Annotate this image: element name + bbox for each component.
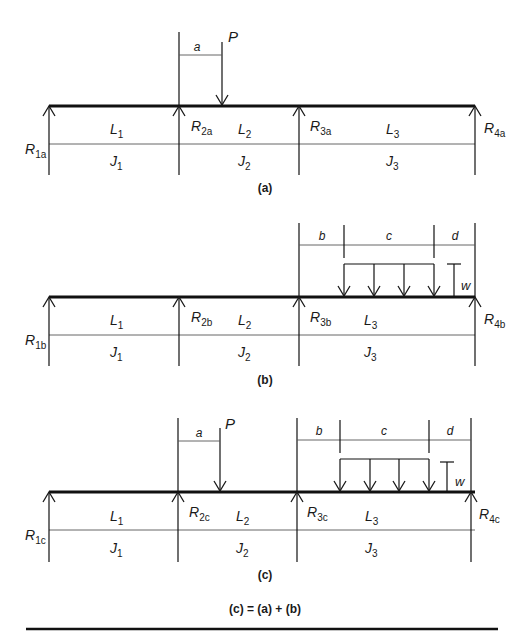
reaction-label-2: R2a (191, 118, 213, 137)
inertia-label-2: J2 (237, 153, 251, 172)
point-load-label: P (228, 28, 238, 45)
udl-label: w (455, 474, 466, 489)
panel-c: P a b c d w R1c R2c R3c R4c L1 L2 L3 J1 … (25, 415, 500, 582)
superposition-equation: (c) = (a) + (b) (229, 602, 301, 616)
inertia-label-3: J3 (363, 344, 377, 363)
inertia-label-1: J1 (109, 344, 123, 363)
span-label-1: L1 (110, 312, 124, 331)
span-label-2: L2 (236, 508, 250, 527)
span-label-1: L1 (110, 508, 124, 527)
inertia-label-2: J2 (235, 540, 249, 559)
reaction-label-1: R1b (25, 332, 47, 351)
inertia-label-2: J2 (237, 344, 251, 363)
inertia-label-3: J3 (385, 153, 399, 172)
superposition-diagram: P a R1a R2a R3a R4a L1 L2 L3 J1 J2 J3 (a… (0, 0, 531, 635)
panel-caption-a: (a) (258, 181, 273, 195)
point-load-label: P (225, 415, 235, 432)
reaction-label-2: R2b (191, 309, 213, 328)
dim-d-label: d (447, 424, 454, 438)
span-label-3: L3 (365, 508, 379, 527)
panel-caption-b: (b) (257, 373, 272, 387)
span-label-3: L3 (386, 121, 400, 140)
inertia-label-3: J3 (364, 540, 378, 559)
inertia-label-1: J1 (109, 153, 123, 172)
reaction-label-1: R1c (25, 527, 46, 546)
inertia-label-1: J1 (109, 540, 123, 559)
reaction-label-3: R3c (307, 504, 328, 523)
reaction-label-3: R3a (310, 118, 332, 137)
panel-b: b c d w R1b R2b R3b R4b L1 L2 L3 J1 J2 J… (25, 223, 506, 387)
dim-c-label: c (381, 424, 387, 438)
reaction-label-3: R3b (310, 309, 332, 328)
reaction-label-1: R1a (25, 141, 47, 160)
reaction-label-2: R2c (189, 504, 210, 523)
span-label-2: L2 (238, 312, 252, 331)
panel-caption-c: (c) (258, 568, 273, 582)
reaction-label-4: R4b (484, 311, 506, 330)
dim-b-label: b (316, 424, 323, 438)
panel-a: P a R1a R2a R3a R4a L1 L2 L3 J1 J2 J3 (a… (25, 28, 506, 195)
span-label-2: L2 (238, 121, 252, 140)
span-label-3: L3 (364, 312, 378, 331)
dim-a-label: a (196, 426, 203, 440)
reaction-label-4: R4a (484, 120, 506, 139)
dim-a-label: a (194, 40, 201, 54)
span-label-1: L1 (110, 121, 124, 140)
reaction-label-4: R4c (479, 506, 500, 525)
dim-c-label: c (386, 229, 392, 243)
dim-b-label: b (319, 229, 326, 243)
dim-d-label: d (452, 229, 459, 243)
udl-label: w (461, 278, 472, 293)
